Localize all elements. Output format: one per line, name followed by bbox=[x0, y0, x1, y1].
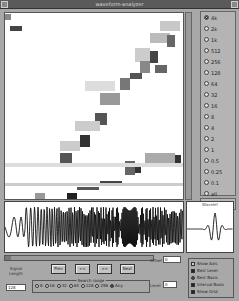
radio-icon[interactable] bbox=[204, 59, 209, 64]
frequency-option[interactable]: 512 bbox=[201, 45, 235, 56]
frequency-option[interactable]: 32 bbox=[201, 89, 235, 100]
display-option[interactable]: Show Grid bbox=[191, 288, 231, 295]
search-range-option[interactable]: 256 bbox=[95, 283, 108, 288]
frequency-option-label: 0.1 bbox=[211, 180, 219, 186]
forward-button[interactable]: >> bbox=[97, 264, 112, 274]
checkbox-icon[interactable] bbox=[191, 290, 195, 294]
window-close-button[interactable] bbox=[231, 1, 238, 8]
radio-icon[interactable] bbox=[204, 114, 209, 119]
radio-icon[interactable] bbox=[204, 125, 209, 130]
search-range-label: Search range bbox=[77, 278, 106, 283]
radio-icon[interactable] bbox=[45, 284, 49, 288]
display-options-group: Show AxisBest LevelBest BasisInterval Ba… bbox=[188, 258, 234, 298]
radio-icon[interactable] bbox=[204, 191, 209, 196]
search-range-option[interactable]: 8 bbox=[35, 283, 43, 288]
radio-icon[interactable] bbox=[57, 284, 61, 288]
frequency-option[interactable]: 8 bbox=[201, 111, 235, 122]
search-range-option[interactable]: 16 bbox=[45, 283, 55, 288]
window-title: waveform-analyzer bbox=[0, 1, 239, 8]
search-range-option-label: 128 bbox=[86, 283, 94, 288]
waveform-horizontal-scrollbar[interactable] bbox=[4, 255, 154, 261]
frequency-option[interactable]: 1k bbox=[201, 34, 235, 45]
checkbox-icon[interactable] bbox=[191, 269, 195, 273]
frequency-options-panel: 4k2k1k51225612864321684210.50.250.1all bbox=[200, 11, 236, 196]
radio-icon[interactable] bbox=[110, 284, 114, 288]
frequency-option[interactable]: 0.5 bbox=[201, 155, 235, 166]
display-option[interactable]: Interval Basis bbox=[191, 281, 231, 288]
frequency-option[interactable]: 256 bbox=[201, 56, 235, 67]
display-option-label: Best Level bbox=[197, 268, 218, 273]
offset-label: Offset bbox=[150, 258, 162, 263]
spectrogram-cell bbox=[60, 141, 80, 151]
spectrogram-cell bbox=[80, 135, 90, 147]
radio-icon[interactable] bbox=[204, 37, 209, 42]
frequency-option-label: 1k bbox=[211, 37, 217, 43]
display-option[interactable]: Show Axis bbox=[191, 260, 231, 267]
radio-icon[interactable] bbox=[204, 147, 209, 152]
radio-icon[interactable] bbox=[204, 180, 209, 185]
frequency-option-label: 256 bbox=[211, 59, 221, 65]
frequency-option[interactable]: 2k bbox=[201, 23, 235, 34]
radio-icon[interactable] bbox=[204, 81, 209, 86]
frequency-option[interactable]: 128 bbox=[201, 67, 235, 78]
search-range-option-label: Any bbox=[115, 283, 123, 288]
frequency-option[interactable]: 2 bbox=[201, 133, 235, 144]
search-range-option-label: 16 bbox=[50, 283, 55, 288]
frequency-option[interactable]: 1 bbox=[201, 144, 235, 155]
frequency-option[interactable]: 0.1 bbox=[201, 177, 235, 188]
search-range-option[interactable]: 64 bbox=[69, 283, 79, 288]
search-range-option[interactable]: 128 bbox=[81, 283, 94, 288]
radio-icon[interactable] bbox=[69, 284, 73, 288]
frequency-option-label: 32 bbox=[211, 92, 217, 98]
radio-icon[interactable] bbox=[204, 48, 209, 53]
waveform-plot[interactable] bbox=[4, 201, 184, 253]
next-button[interactable]: Next bbox=[120, 264, 135, 274]
display-option[interactable]: Best Basis bbox=[191, 274, 231, 281]
spectrogram-cell bbox=[135, 48, 150, 62]
frequency-option-label: 128 bbox=[211, 70, 221, 76]
scrollbar-thumb[interactable] bbox=[5, 256, 11, 260]
frequency-option[interactable]: 16 bbox=[201, 100, 235, 111]
wavelet-preview-label: Wavelet bbox=[187, 202, 233, 207]
frequency-option-label: 8 bbox=[211, 114, 214, 120]
signal-length-input[interactable]: 128 bbox=[6, 284, 26, 291]
frequency-option-label: 0.25 bbox=[211, 169, 222, 175]
spectrogram-cell bbox=[85, 81, 115, 91]
radio-icon[interactable] bbox=[204, 26, 209, 31]
level-input[interactable]: 0 bbox=[163, 281, 177, 288]
spectrogram-vertical-scrollbar[interactable] bbox=[185, 12, 192, 200]
radio-icon[interactable] bbox=[191, 276, 195, 280]
offset-input[interactable]: 0 bbox=[163, 256, 181, 263]
frequency-option[interactable]: 64 bbox=[201, 78, 235, 89]
radio-icon[interactable] bbox=[204, 103, 209, 108]
radio-icon[interactable] bbox=[204, 92, 209, 97]
frequency-option[interactable]: 0.25 bbox=[201, 166, 235, 177]
spectrogram-cell bbox=[167, 35, 175, 47]
radio-icon[interactable] bbox=[204, 158, 209, 163]
radio-icon[interactable] bbox=[204, 169, 209, 174]
spectrogram-cell bbox=[155, 65, 167, 73]
frequency-option[interactable]: 4 bbox=[201, 122, 235, 133]
radio-icon[interactable] bbox=[95, 284, 99, 288]
prev-button[interactable]: Prev bbox=[51, 264, 66, 274]
search-range-option[interactable]: Any bbox=[110, 283, 123, 288]
wavelet-preview: Wavelet bbox=[186, 201, 234, 253]
radio-icon[interactable] bbox=[204, 136, 209, 141]
checkbox-icon[interactable] bbox=[191, 262, 195, 266]
radio-icon[interactable] bbox=[35, 284, 39, 288]
spectrogram-cell bbox=[140, 61, 150, 73]
spectrogram-cell bbox=[5, 163, 184, 167]
spectrogram-cell bbox=[10, 26, 22, 31]
display-option-label: Show Grid bbox=[197, 289, 217, 294]
frequency-option[interactable]: 4k bbox=[201, 12, 235, 23]
spectrogram-cell bbox=[100, 93, 120, 105]
display-option[interactable]: Best Level bbox=[191, 267, 231, 274]
radio-icon[interactable] bbox=[204, 15, 209, 20]
radio-icon[interactable] bbox=[204, 70, 209, 75]
frequency-option-label: 1 bbox=[211, 147, 214, 153]
checkbox-icon[interactable] bbox=[191, 283, 195, 287]
search-range-option[interactable]: 32 bbox=[57, 283, 67, 288]
back-button[interactable]: << bbox=[75, 264, 90, 274]
spectrogram-plot[interactable] bbox=[4, 12, 184, 200]
radio-icon[interactable] bbox=[81, 284, 85, 288]
